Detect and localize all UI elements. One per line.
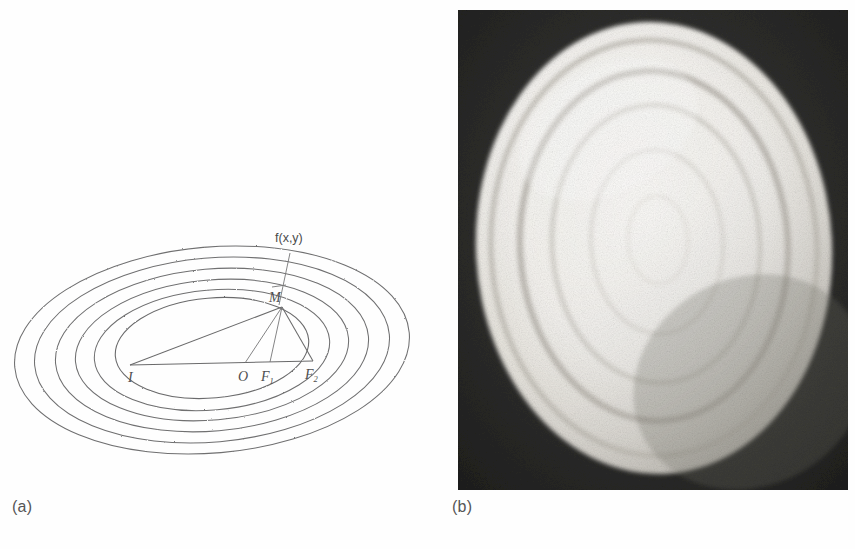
axis-line-I-F2	[130, 361, 313, 365]
radius-line-M-F1	[270, 307, 282, 362]
label-focus-2-subscript: 2	[314, 374, 319, 384]
label-point-i: I	[127, 370, 134, 385]
chord-line-I-M	[130, 307, 282, 365]
label-function-fxy: f(x,y)	[275, 231, 303, 245]
photo-content	[458, 10, 848, 490]
ellipse-contour-4	[49, 256, 376, 445]
label-focus-1-subscript: 1	[270, 376, 274, 386]
figure-root: f(x,y) M I O F1 F2	[0, 0, 855, 549]
label-point-o: O	[238, 369, 248, 384]
ellipse-contour-3	[69, 268, 354, 431]
caption-panel-b: (b)	[452, 498, 472, 516]
ellipse-diagram-svg: f(x,y) M I O F1 F2	[0, 215, 430, 485]
ellipse-contour-5	[27, 243, 398, 457]
panel-b-photograph	[458, 10, 848, 490]
radius-line-M-O	[245, 307, 282, 363]
label-focus-2-base: F	[304, 367, 314, 382]
label-focus-2: F2	[304, 367, 319, 384]
ellipse-contour-6	[6, 230, 418, 470]
photograph-svg	[458, 10, 848, 490]
caption-panel-a: (a)	[12, 498, 32, 516]
label-focus-1: F1	[260, 369, 274, 386]
ellipse-contour-group	[6, 230, 418, 470]
label-focus-1-base: F	[260, 369, 270, 384]
chord-line-M-F2	[282, 307, 313, 361]
panel-a-ellipse-diagram: f(x,y) M I O F1 F2	[0, 215, 430, 485]
construction-group	[130, 253, 313, 365]
label-point-m: M	[268, 290, 282, 305]
